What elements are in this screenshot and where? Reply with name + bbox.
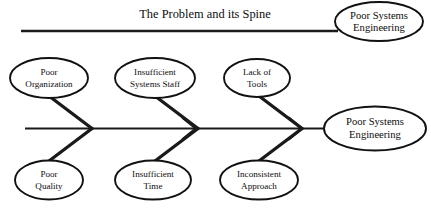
cause-label-poor-organization-line1: Poor <box>40 67 57 77</box>
rib-lower-inconsistent-approach <box>259 129 302 162</box>
diagram-title: The Problem and its Spine <box>139 7 271 21</box>
cause-label-inconsistent-approach-line1: Inconsistent <box>237 169 281 179</box>
rib-upper-lack-of-tools <box>259 96 302 129</box>
cause-label-insufficient-time-line2: Time <box>144 181 163 191</box>
cause-node-poor-quality: Poor Quality <box>15 161 83 200</box>
callout-node-poor-systems-engineering: Poor Systems Engineering <box>335 2 423 41</box>
cause-node-inconsistent-approach: Inconsistent Approach <box>220 161 298 200</box>
cause-label-insufficient-systems-staff-line2: Systems Staff <box>130 79 181 89</box>
effect-label-line2: Engineering <box>349 129 401 140</box>
fishbone-canvas: The Problem and its Spine Poor Systems E… <box>0 0 431 217</box>
effect-node-poor-systems-engineering: Poor Systems Engineering <box>324 107 426 151</box>
cause-label-poor-organization-line2: Organization <box>25 79 73 89</box>
cause-label-poor-quality-line2: Quality <box>35 181 63 191</box>
cause-node-lack-of-tools: Lack of Tools <box>224 59 290 97</box>
rib-upper-poor-organization <box>49 96 92 129</box>
callout-label-line1: Poor Systems <box>350 10 408 21</box>
cause-label-lack-of-tools-line1: Lack of <box>243 67 272 77</box>
cause-node-poor-organization: Poor Organization <box>10 58 88 98</box>
rib-upper-insufficient-systems-staff <box>155 96 198 129</box>
fishbone-diagram: The Problem and its Spine Poor Systems E… <box>0 0 431 217</box>
cause-label-poor-quality-line1: Poor <box>40 169 57 179</box>
rib-lower-poor-quality <box>49 129 92 162</box>
rib-lower-insufficient-time <box>155 129 198 162</box>
cause-label-insufficient-systems-staff-line1: Insufficient <box>134 67 176 77</box>
cause-label-inconsistent-approach-line2: Approach <box>241 181 277 191</box>
cause-node-insufficient-time: Insufficient Time <box>115 161 191 200</box>
cause-label-lack-of-tools-line2: Tools <box>247 79 268 89</box>
effect-label-line1: Poor Systems <box>346 116 404 127</box>
cause-label-insufficient-time-line1: Insufficient <box>132 169 174 179</box>
callout-label-line2: Engineering <box>353 22 405 33</box>
cause-node-insufficient-systems-staff: Insufficient Systems Staff <box>115 58 195 98</box>
